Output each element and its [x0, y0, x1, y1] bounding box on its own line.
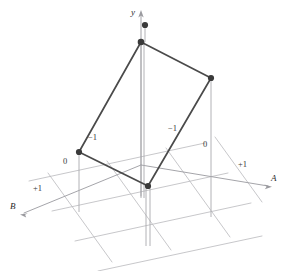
tick-label-a-plus1: +1: [238, 160, 247, 169]
vertex-markers: [76, 22, 214, 189]
tick-label-b-plus1: +1: [33, 184, 42, 193]
axis-label-A: A: [271, 174, 277, 183]
figure-3d-axis-diagram: y A B −1 −1 0 0 +1 +1: [0, 0, 288, 271]
axis-A-arrowhead: [264, 185, 272, 190]
axis-label-y: y: [131, 8, 135, 17]
marker-front: [145, 183, 151, 189]
marker-top-point: [142, 22, 148, 28]
drop-lines: [79, 26, 211, 246]
parallelogram-outline: [79, 42, 211, 186]
parallelogram-patch: [79, 42, 211, 186]
axis-B-arrowhead: [20, 213, 28, 217]
axis-label-B: B: [10, 202, 16, 211]
tick-label-y-right-neg1: −1: [168, 124, 177, 133]
tick-label-a-zero: 0: [203, 140, 207, 149]
tick-label-b-zero: 0: [63, 157, 67, 166]
diagram-canvas: [0, 0, 288, 271]
tick-label-y-left-neg1: −1: [88, 133, 97, 142]
marker-right: [208, 75, 214, 81]
marker-apex: [138, 39, 145, 46]
marker-left: [76, 149, 82, 155]
axis-A: [141, 165, 272, 189]
